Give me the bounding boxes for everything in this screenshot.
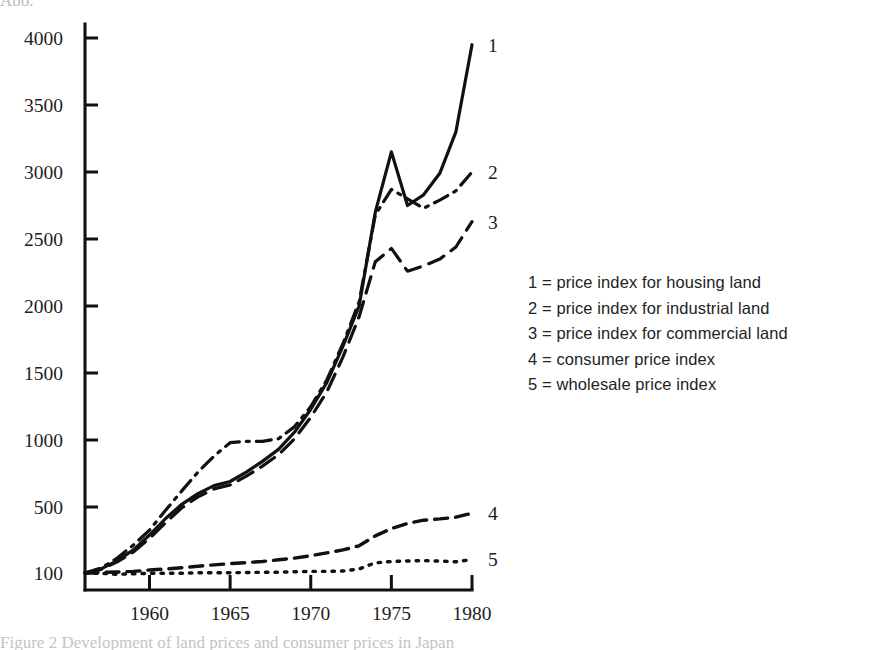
series-tag-1: 1 (488, 35, 498, 56)
y-tick-label: 4000 (24, 28, 63, 49)
x-tick-label: 1980 (453, 603, 492, 624)
legend-entry: 4 = consumer price index (528, 350, 716, 368)
series-line-2 (85, 172, 472, 573)
x-tick-label: 1970 (291, 603, 330, 624)
y-tick-label: 2500 (24, 229, 63, 250)
series-tag-4: 4 (488, 503, 498, 524)
axis-tick-marks (85, 38, 472, 590)
series-lines (85, 45, 472, 575)
series-tag-5: 5 (488, 549, 498, 570)
x-tick-label: 1960 (130, 603, 169, 624)
x-axis-tick-labels: 19601965197019751980 (130, 603, 492, 624)
y-tick-label: 1000 (24, 430, 63, 451)
series-line-5 (85, 560, 472, 575)
x-tick-label: 1965 (211, 603, 250, 624)
y-tick-label: 3500 (24, 95, 63, 116)
x-tick-label: 1975 (372, 603, 411, 624)
series-end-labels: 12345 (488, 35, 498, 571)
legend: 1 = price index for housing land2 = pric… (528, 273, 788, 393)
y-tick-label: 500 (34, 497, 63, 518)
series-line-3 (85, 222, 472, 573)
cropped-caption-text: Figure 2 Development of land prices and … (0, 633, 873, 650)
legend-entry: 1 = price index for housing land (528, 273, 761, 291)
series-tag-3: 3 (488, 212, 498, 233)
y-tick-label: 100 (34, 563, 63, 584)
y-tick-label: 2000 (24, 296, 63, 317)
series-line-1 (85, 45, 472, 573)
y-axis-tick-labels: 1005001000150020002500300035004000 (24, 28, 63, 584)
legend-entry: 2 = price index for industrial land (528, 299, 770, 317)
y-tick-label: 1500 (24, 363, 63, 384)
y-tick-label: 3000 (24, 162, 63, 183)
legend-entry: 3 = price index for commercial land (528, 324, 788, 342)
series-tag-2: 2 (488, 162, 498, 183)
legend-entry: 5 = wholesale price index (528, 375, 717, 393)
